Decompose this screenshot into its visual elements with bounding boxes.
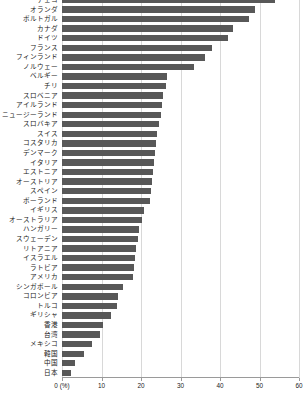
category-label: コロンビア bbox=[23, 292, 58, 300]
tick-mark-40 bbox=[220, 378, 221, 381]
tick-label-50: 50 bbox=[256, 382, 263, 389]
bar-row bbox=[62, 321, 299, 329]
category-label: 日本 bbox=[44, 369, 58, 377]
bar bbox=[62, 207, 144, 213]
bar bbox=[62, 293, 118, 299]
bar bbox=[62, 102, 162, 108]
category-label: オーストリア bbox=[16, 178, 58, 186]
gridline-60 bbox=[299, 0, 300, 378]
bar bbox=[62, 140, 156, 146]
tick-mark-50 bbox=[260, 378, 261, 381]
bar bbox=[62, 45, 212, 51]
bar bbox=[62, 0, 275, 3]
bar bbox=[62, 35, 228, 41]
bar-row bbox=[62, 197, 299, 205]
bar bbox=[62, 217, 142, 223]
category-label: オランダ bbox=[30, 6, 58, 14]
category-label: シンガポール bbox=[16, 283, 58, 291]
category-label: ノルウェー bbox=[23, 63, 58, 71]
bar-row bbox=[62, 225, 299, 233]
bar bbox=[62, 351, 84, 357]
bar-row bbox=[62, 216, 299, 224]
bar-row bbox=[62, 130, 299, 138]
category-label: 香港 bbox=[44, 321, 58, 329]
category-label: チリ bbox=[44, 82, 58, 90]
category-label: 台湾 bbox=[44, 331, 58, 339]
bar-row bbox=[62, 206, 299, 214]
bar bbox=[62, 198, 150, 204]
bar-row bbox=[62, 15, 299, 23]
category-label: リトアニア bbox=[23, 245, 58, 253]
category-label: アイルランド bbox=[16, 101, 58, 109]
bar bbox=[62, 370, 71, 376]
bar-row bbox=[62, 139, 299, 147]
category-label: スイス bbox=[37, 130, 58, 138]
bar-row bbox=[62, 168, 299, 176]
plot-area bbox=[62, 0, 299, 378]
tick-mark-10 bbox=[102, 378, 103, 381]
bar-row bbox=[62, 187, 299, 195]
bar bbox=[62, 264, 134, 270]
tick-label-0: 0 (%) bbox=[54, 382, 69, 389]
bar bbox=[62, 331, 100, 337]
bar-row bbox=[62, 72, 299, 80]
bar bbox=[62, 303, 117, 309]
bar-row bbox=[62, 283, 299, 291]
bar-row bbox=[62, 245, 299, 253]
bar-row bbox=[62, 340, 299, 348]
bar-row bbox=[62, 34, 299, 42]
category-label: イスラエル bbox=[23, 254, 58, 262]
category-label: アメリカ bbox=[30, 273, 58, 281]
tick-label-60: 60 bbox=[295, 382, 302, 389]
bar bbox=[62, 112, 161, 118]
category-label: スロバキア bbox=[23, 120, 58, 128]
bar bbox=[62, 284, 123, 290]
category-label: ニュージーランド bbox=[2, 111, 58, 119]
bar bbox=[62, 54, 205, 60]
category-label: ラトビア bbox=[30, 264, 58, 272]
bar-row bbox=[62, 0, 299, 4]
category-label: メキシコ bbox=[30, 340, 58, 348]
bar-row bbox=[62, 53, 299, 61]
bar-row bbox=[62, 159, 299, 167]
category-label: チェコ bbox=[37, 0, 58, 4]
bar-row bbox=[62, 302, 299, 310]
tick-label-10: 10 bbox=[98, 382, 105, 389]
category-label: イタリア bbox=[30, 159, 58, 167]
bar bbox=[62, 121, 159, 127]
bar bbox=[62, 245, 136, 251]
bar bbox=[62, 131, 157, 137]
bar bbox=[62, 150, 155, 156]
category-label: ハンガリー bbox=[23, 225, 58, 233]
bar bbox=[62, 255, 135, 261]
category-label: ギリシャ bbox=[30, 311, 58, 319]
bar bbox=[62, 73, 167, 79]
category-label: 中国 bbox=[44, 359, 58, 367]
bar-row bbox=[62, 149, 299, 157]
bar-row bbox=[62, 178, 299, 186]
bar bbox=[62, 360, 75, 366]
tick-mark-60 bbox=[299, 378, 300, 381]
bar bbox=[62, 322, 103, 328]
category-label: ドイツ bbox=[37, 34, 58, 42]
bar-row bbox=[62, 44, 299, 52]
category-label: フィンランド bbox=[16, 53, 58, 61]
bar bbox=[62, 83, 166, 89]
category-label: エストニア bbox=[23, 168, 58, 176]
bar bbox=[62, 6, 255, 12]
value-axis: 0 (%)102030405060 bbox=[0, 378, 304, 396]
category-label: コスタリカ bbox=[23, 139, 58, 147]
category-label: ベルギー bbox=[30, 72, 58, 80]
bar bbox=[62, 188, 151, 194]
bar bbox=[62, 25, 233, 31]
category-label: スウェーデン bbox=[16, 235, 58, 243]
bar-row bbox=[62, 359, 299, 367]
category-label: カナダ bbox=[37, 25, 58, 33]
tick-label-30: 30 bbox=[177, 382, 184, 389]
tick-label-20: 20 bbox=[137, 382, 144, 389]
category-label: オーストラリア bbox=[9, 216, 58, 224]
horizontal-bar-chart: チェコオランダポルトガルカナダドイツフランスフィンランドノルウェーベルギーチリス… bbox=[0, 0, 304, 396]
bars-container bbox=[62, 0, 299, 378]
bar bbox=[62, 159, 154, 165]
bar-row bbox=[62, 235, 299, 243]
